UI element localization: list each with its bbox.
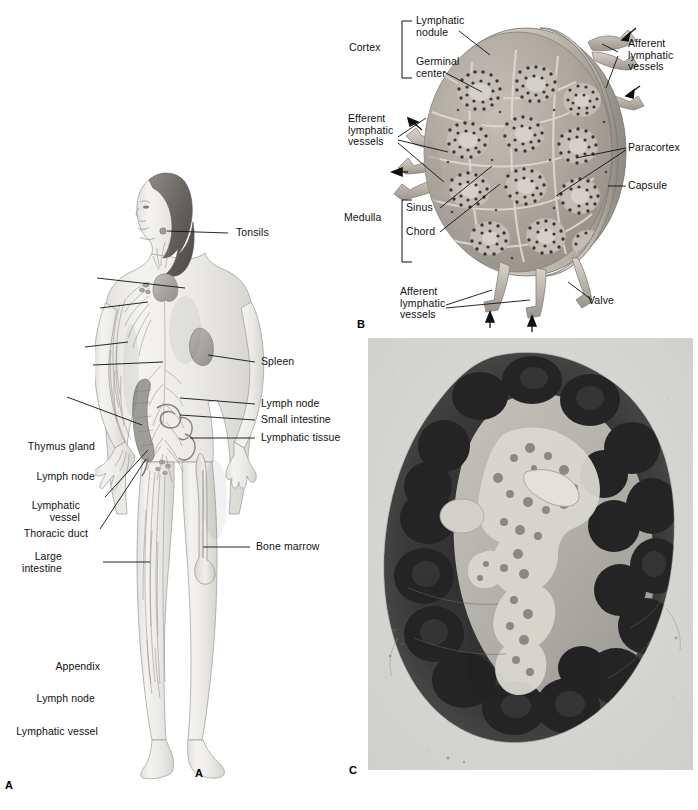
pale-lacuna <box>440 499 484 533</box>
label-bone-marrow: Bone marrow <box>256 541 320 553</box>
panel-b-letter: B <box>357 318 365 330</box>
label-valve: Valve <box>588 295 614 307</box>
lymph-node-histology-image <box>368 338 693 770</box>
label-lymphatic-vessel-arm: Lymphatic vessel <box>0 500 80 523</box>
panel-a-figure-letter: A <box>195 767 203 779</box>
label-medulla-bracket: Medulla <box>344 212 381 224</box>
label-germinal-center: Germinal center <box>416 56 459 79</box>
label-thoracic-duct: Thoracic duct <box>0 528 88 540</box>
panel-b-lymph-node-diagram: Cortex Medulla Lymphatic nodule Germinal… <box>340 0 698 340</box>
label-thymus-gland: Thymus gland <box>0 441 95 453</box>
panel-a-letter: A <box>5 779 13 791</box>
label-tonsils: Tonsils <box>236 227 269 239</box>
label-large-intestine: Large intestine <box>0 551 62 574</box>
label-lymphatic-vessel-leg: Lymphatic vessel <box>0 726 98 738</box>
label-lymph-node-abdomen: Lymph node <box>261 398 319 410</box>
label-lymph-node-axilla: Lymph node <box>0 471 95 483</box>
label-chord: Chord <box>406 226 435 238</box>
panel-c-lymph-node-micrograph <box>368 338 693 770</box>
label-paracortex: Paracortex <box>628 142 680 154</box>
label-lymphatic-tissue: Lymphatic tissue <box>261 432 340 444</box>
figure-root: Thymus gland Lymph node Lymphatic vessel… <box>0 0 698 810</box>
label-sinus: Sinus <box>406 202 433 214</box>
label-lymphatic-nodule: Lymphatic nodule <box>416 15 464 38</box>
label-appendix: Appendix <box>0 661 100 673</box>
panel-a-lymphatic-system: Thymus gland Lymph node Lymphatic vessel… <box>0 170 340 790</box>
label-spleen: Spleen <box>261 356 294 368</box>
label-afferent-lymphatic-vessels-top: Afferent lymphatic vessels <box>628 38 673 73</box>
label-capsule: Capsule <box>628 180 667 192</box>
label-efferent-lymphatic-vessels: Efferent lymphatic vessels <box>348 113 393 148</box>
panel-c-letter: C <box>349 764 357 776</box>
label-afferent-lymphatic-vessels-bottom: Afferent lymphatic vessels <box>400 286 445 321</box>
label-lymph-node-groin: Lymph node <box>0 693 95 705</box>
label-small-intestine: Small intestine <box>261 414 331 426</box>
label-cortex-bracket: Cortex <box>349 42 381 54</box>
